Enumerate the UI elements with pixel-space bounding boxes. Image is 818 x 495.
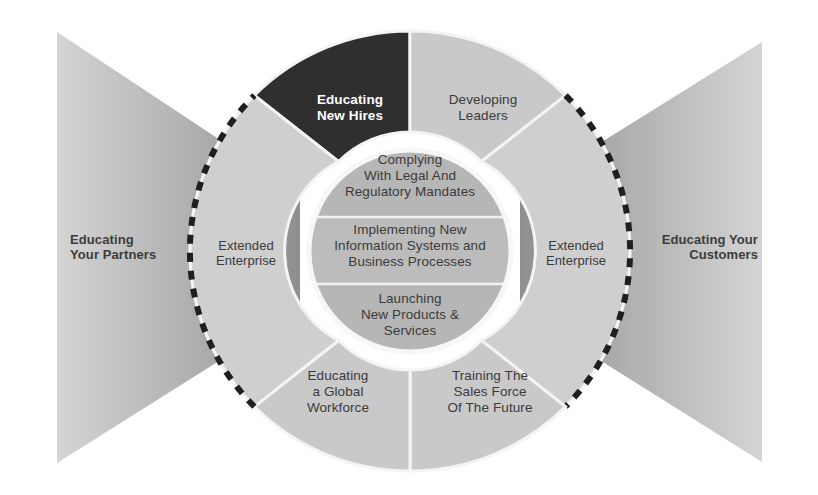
inner-circle-group xyxy=(305,150,515,354)
diagram-canvas: Educating New Hires Developing Leaders E… xyxy=(0,0,818,495)
wheel-graphic xyxy=(0,0,818,495)
inner-band-implementing-systems[interactable] xyxy=(305,217,515,284)
